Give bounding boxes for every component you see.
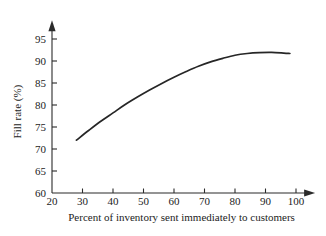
data-series-group [76,52,290,140]
y-axis-ticks: 6065707580859095 [35,33,57,199]
x-tick-label: 90 [260,195,272,207]
y-tick-label: 85 [35,77,47,89]
y-tick-label: 60 [35,187,47,199]
x-axis-title: Percent of inventory sent immediately to… [68,211,295,223]
chart-canvas: 2030405060708090100 6065707580859095 Per… [0,0,326,236]
x-axis-ticks: 2030405060708090100 [47,189,305,207]
y-tick-label: 95 [35,33,47,45]
chart-figure: 2030405060708090100 6065707580859095 Per… [0,0,326,236]
data-curve [76,52,290,140]
y-tick-label: 90 [35,55,47,67]
y-axis-title: Fill rate (%) [11,84,24,138]
x-tick-label: 20 [47,195,59,207]
y-tick-label: 70 [35,143,47,155]
x-tick-label: 30 [77,195,89,207]
y-axis-arrow-icon [48,20,55,31]
x-tick-label: 60 [169,195,181,207]
y-tick-label: 65 [35,165,47,177]
y-tick-label: 75 [35,121,47,133]
y-tick-label: 80 [35,99,47,111]
x-tick-label: 50 [138,195,150,207]
x-tick-label: 100 [288,195,305,207]
x-tick-label: 40 [108,195,120,207]
x-tick-label: 70 [199,195,211,207]
x-tick-label: 80 [230,195,242,207]
axes-group [48,20,315,196]
x-axis-arrow-icon [304,189,315,196]
